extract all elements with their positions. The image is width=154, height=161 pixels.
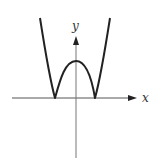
y-axis-arrowhead — [73, 36, 79, 45]
x-axis-label: x — [142, 91, 149, 105]
y-axis-label: y — [71, 19, 79, 33]
function-graph: x y — [0, 0, 154, 161]
x-axis-arrowhead — [128, 95, 137, 101]
